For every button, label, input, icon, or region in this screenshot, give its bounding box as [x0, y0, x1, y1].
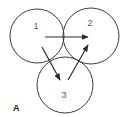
node-label-2: 2 [87, 18, 92, 28]
circle-node-1 [10, 9, 64, 63]
node-label-1: 1 [33, 21, 38, 31]
venn-flow-diagram: 1 2 3 A [0, 0, 124, 117]
panel-label: A [13, 103, 20, 113]
circle-node-3 [37, 57, 93, 113]
node-label-3: 3 [61, 90, 66, 100]
circle-node-2 [63, 8, 119, 64]
arrow-1-to-3 [42, 47, 60, 80]
arrow-3-to-2 [68, 45, 88, 80]
